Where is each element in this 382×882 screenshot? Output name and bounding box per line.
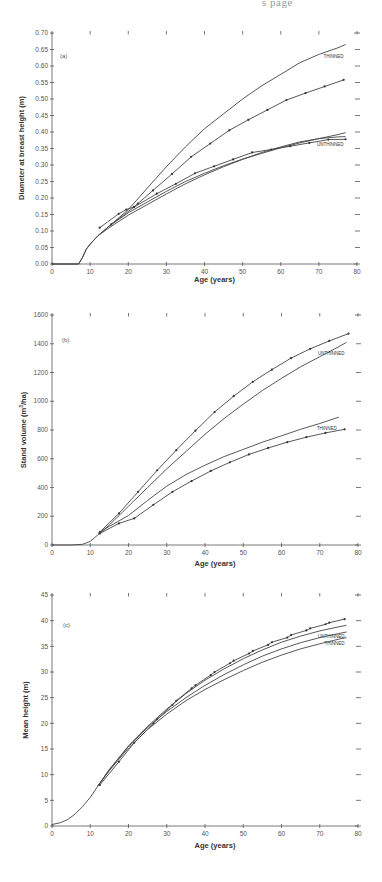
series-line [98,137,346,236]
data-point-marker [175,183,177,185]
data-point-marker [248,652,250,654]
y-tick-label: 200 [37,512,48,519]
y-tick-label: 0 [44,541,48,548]
data-point-marker [323,85,325,87]
data-point-marker [344,618,346,620]
y-tick-label: 45 [41,591,49,598]
series-label: UNTHINNED [317,142,344,147]
series-label: UNTHINNED [318,351,345,356]
y-tick-label: 5 [44,797,48,804]
y-tick-label: 0.45 [35,112,48,119]
y-tick-label: 0.30 [35,161,48,168]
data-point-marker [137,491,139,493]
y-tick-label: 0.60 [35,62,48,69]
panel-label: (a) [60,53,67,59]
y-tick-label: 0 [44,822,48,829]
data-point-marker [267,447,269,449]
x-tick-label: 0 [50,549,54,556]
y-tick-label: 0.55 [35,79,48,86]
x-tick-label: 50 [239,268,247,275]
y-tick-label: 1600 [34,311,49,318]
chart-mean-height: 01020304050607080051015202530354045Age (… [0,580,382,882]
x-tick-label: 60 [278,549,286,556]
series-line [52,342,347,545]
y-tick-label: 10 [41,771,49,778]
data-point-marker [194,430,196,432]
data-point-marker [305,629,307,631]
y-tick-label: 25 [41,694,49,701]
data-point-marker [152,504,154,506]
data-point-marker [252,381,254,383]
data-point-marker [304,92,306,94]
x-tick-label: 60 [278,830,286,837]
panel-label: (c) [63,622,70,628]
data-point-marker [171,491,173,493]
x-tick-label: 40 [201,549,209,556]
data-point-marker [271,641,273,643]
data-point-marker [328,340,330,342]
data-point-marker [133,517,135,519]
data-point-marker [286,637,288,639]
data-point-marker [229,461,231,463]
y-tick-label: 0.05 [35,244,48,251]
data-point-marker [171,173,173,175]
data-point-marker [347,333,349,335]
data-point-marker [191,480,193,482]
y-tick-label: 1400 [34,340,49,347]
data-point-marker [233,660,235,662]
data-point-marker [305,436,307,438]
y-tick-label: 0.65 [35,46,48,53]
x-tick-label: 70 [316,830,324,837]
data-point-marker [286,441,288,443]
y-tick-label: 0.20 [35,194,48,201]
data-point-marker [118,761,120,763]
data-point-marker [99,532,101,534]
data-point-marker [125,208,127,210]
series-label: THINNED [324,54,345,59]
data-point-marker [175,449,177,451]
x-tick-label: 80 [354,830,362,837]
data-point-marker [156,469,158,471]
x-axis-title: Age (years) [195,559,236,568]
x-tick-label: 20 [125,549,133,556]
data-point-marker [190,156,192,158]
data-point-marker [309,627,311,629]
data-point-marker [247,119,249,121]
series-label: THINNED [317,426,338,431]
x-tick-label: 80 [354,549,362,556]
chart-dbh: 010203040506070800.000.050.100.150.200.2… [0,0,382,290]
x-tick-label: 20 [125,268,133,275]
y-tick-label: 0.00 [35,260,48,267]
data-point-marker [194,172,196,174]
data-point-marker [210,470,212,472]
x-tick-label: 20 [125,830,133,837]
data-point-marker [324,623,326,625]
data-point-marker [309,348,311,350]
data-point-marker [110,223,112,225]
x-tick-label: 60 [277,268,285,275]
data-point-marker [327,138,329,140]
data-point-marker [118,522,120,524]
data-point-marker [290,357,292,359]
x-tick-label: 80 [353,268,361,275]
y-tick-label: 0.25 [35,178,48,185]
x-tick-label: 30 [163,830,171,837]
x-tick-label: 0 [50,830,54,837]
data-point-marker [324,432,326,434]
x-tick-label: 10 [87,549,95,556]
data-point-marker [209,142,211,144]
data-point-marker [267,644,269,646]
y-tick-label: 0.50 [35,95,48,102]
series-line [98,638,347,786]
y-tick-label: 1200 [34,369,49,376]
y-tick-label: 20 [41,720,49,727]
series-line [52,625,347,824]
x-tick-label: 50 [240,549,248,556]
y-tick-label: 0.40 [35,128,48,135]
data-point-marker [289,145,291,147]
series-line [100,619,345,785]
series-line [52,133,346,264]
data-point-marker [328,622,330,624]
y-tick-label: 40 [41,617,49,624]
panel-label: (b) [62,337,69,343]
